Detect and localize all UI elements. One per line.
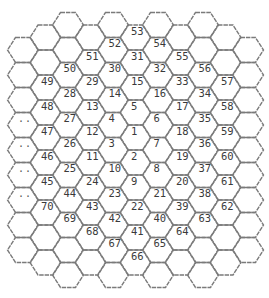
hex-ellipsis-label: ..: [18, 188, 32, 199]
hex-number-label: 4: [109, 112, 115, 124]
hex-ellipsis-label: ..: [18, 138, 32, 149]
hex-number-label: 64: [176, 225, 189, 237]
hex-number-label: 30: [109, 62, 122, 74]
hex-number-label: 34: [199, 87, 212, 99]
hex-number-label: 28: [64, 87, 77, 99]
hex-cell: [210, 25, 241, 50]
hex-cell: [233, 163, 264, 188]
hex-number-label: 60: [221, 150, 234, 162]
hex-cell: [210, 250, 241, 275]
hex-number-label: 70: [41, 200, 54, 212]
hex-number-label: 65: [154, 237, 167, 249]
hex-cell: [30, 250, 61, 275]
hex-number-label: 32: [154, 62, 167, 74]
hex-number-label: 63: [199, 212, 212, 224]
hex-cell: [75, 250, 106, 275]
hex-cell: [233, 38, 264, 63]
hex-number-label: 31: [131, 50, 144, 62]
hex-labels: ........49484746457050282726254469512913…: [18, 25, 234, 262]
hex-number-label: 46: [41, 150, 54, 162]
hex-number-label: 9: [131, 175, 137, 187]
hex-number-label: 62: [221, 200, 234, 212]
hex-cell: [53, 38, 84, 63]
hex-number-label: 42: [109, 212, 122, 224]
hex-cell: [53, 13, 84, 38]
hex-cell: [30, 50, 61, 75]
hex-cell: [53, 263, 84, 288]
hex-number-label: 13: [86, 100, 99, 112]
hex-number-label: 67: [109, 237, 122, 249]
hex-cell: [210, 225, 241, 250]
hex-number-label: 39: [176, 200, 189, 212]
hex-number-label: 36: [199, 137, 212, 149]
hex-cell: [188, 38, 219, 63]
hex-number-label: 27: [64, 112, 77, 124]
hex-cell: [233, 213, 264, 238]
hex-number-label: 26: [64, 137, 77, 149]
hex-cell: [210, 50, 241, 75]
hex-number-label: 19: [176, 150, 189, 162]
hex-number-label: 66: [131, 250, 144, 262]
hex-number-label: 8: [154, 162, 160, 174]
hex-cell: [8, 213, 39, 238]
hex-cell: [233, 63, 264, 88]
hex-number-label: 41: [131, 225, 144, 237]
hex-number-label: 52: [109, 37, 122, 49]
hex-cell: [98, 13, 129, 38]
hex-ellipsis-label: ..: [18, 113, 32, 124]
hex-cell: [8, 38, 39, 63]
hex-number-label: 24: [86, 175, 99, 187]
hex-number-label: 20: [176, 175, 189, 187]
hex-cell: [8, 63, 39, 88]
hex-cell: [188, 238, 219, 263]
hex-number-label: 45: [41, 175, 54, 187]
hex-number-label: 3: [109, 137, 115, 149]
hex-grid-diagram: ........49484746457050282726254469512913…: [0, 0, 269, 298]
hex-number-label: 14: [109, 87, 122, 99]
hex-number-label: 49: [41, 75, 54, 87]
hex-number-label: 10: [109, 162, 122, 174]
hex-number-label: 18: [176, 125, 189, 137]
hex-number-label: 68: [86, 225, 99, 237]
hex-ellipsis-label: ..: [18, 163, 32, 174]
hex-number-label: 22: [131, 200, 144, 212]
hex-cell: [8, 238, 39, 263]
hex-cell: [188, 263, 219, 288]
hex-number-label: 37: [199, 162, 212, 174]
hex-number-label: 51: [86, 50, 99, 62]
hex-cell: [143, 263, 174, 288]
hex-number-label: 61: [221, 175, 234, 187]
hex-number-label: 58: [221, 100, 234, 112]
hex-cell: [53, 238, 84, 263]
hex-number-label: 54: [154, 37, 167, 49]
hex-number-label: 5: [131, 100, 137, 112]
hex-number-label: 47: [41, 125, 54, 137]
hex-number-label: 55: [176, 50, 189, 62]
hex-cell: [188, 13, 219, 38]
hex-cell: [8, 88, 39, 113]
hex-number-label: 7: [154, 137, 160, 149]
hex-cell: [98, 263, 129, 288]
hex-number-label: 15: [131, 75, 144, 87]
hex-number-label: 23: [109, 187, 122, 199]
hex-cell: [233, 88, 264, 113]
hex-number-label: 40: [154, 212, 167, 224]
hex-number-label: 33: [176, 75, 189, 87]
hex-number-label: 43: [86, 200, 99, 212]
hex-number-label: 44: [64, 187, 77, 199]
hex-number-label: 69: [64, 212, 77, 224]
hex-number-label: 1: [131, 125, 137, 137]
hex-number-label: 48: [41, 100, 54, 112]
hex-number-label: 11: [86, 150, 99, 162]
hex-number-label: 12: [86, 125, 99, 137]
hex-number-label: 2: [131, 150, 137, 162]
hex-number-label: 56: [199, 62, 212, 74]
hex-cell: [165, 25, 196, 50]
hex-number-label: 17: [176, 100, 189, 112]
hex-cell: [165, 250, 196, 275]
hex-number-label: 21: [154, 187, 167, 199]
hex-cell: [143, 13, 174, 38]
hex-number-label: 38: [199, 187, 212, 199]
hex-cell: [233, 113, 264, 138]
hex-cell: [30, 25, 61, 50]
